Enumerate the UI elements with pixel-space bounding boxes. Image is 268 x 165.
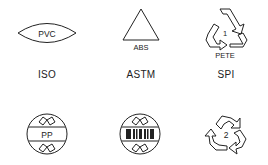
recycling-arrows-symbol: 2 [203, 112, 249, 158]
spi-recycling-symbol: 1 PETE [200, 4, 250, 60]
recycling-symbol-number: 2 [224, 130, 229, 140]
caption-astm: ASTM [111, 69, 171, 80]
iso-symbol-text: PVC [38, 29, 55, 39]
caption-iso: ISO [17, 69, 77, 80]
astm-triangle-symbol: ABS [118, 6, 164, 54]
astm-symbol-text: ABS [133, 43, 148, 52]
spi-symbol-text: PETE [215, 51, 235, 60]
caption-spi: SPI [196, 69, 256, 80]
spi-symbol-number: 1 [223, 29, 227, 38]
barcode-circle-symbol [118, 112, 162, 156]
iso-lens-symbol: PVC [14, 20, 80, 46]
barcode-icon [126, 129, 154, 139]
pp-circle-symbol: PP [25, 112, 69, 156]
pp-symbol-text: PP [41, 130, 53, 140]
